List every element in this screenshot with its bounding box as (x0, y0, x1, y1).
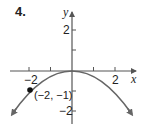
y-axis-label: y (62, 5, 69, 19)
x-tick-label-neg2: −2 (24, 73, 38, 87)
point-marker (27, 87, 33, 93)
x-axis-label: x (130, 72, 137, 86)
curve-left-arrow (12, 109, 16, 115)
point-label: (−2, −1) (34, 89, 73, 101)
x-tick-label-2: 2 (112, 73, 119, 87)
graph-figure: 4. −2 2 2 −2 x y (−2, −1) (0, 0, 141, 133)
y-tick-label-2: 2 (63, 23, 70, 37)
problem-number: 4. (15, 4, 26, 19)
curve-right-arrow (128, 109, 132, 115)
y-tick-label-neg2: −2 (59, 104, 73, 118)
